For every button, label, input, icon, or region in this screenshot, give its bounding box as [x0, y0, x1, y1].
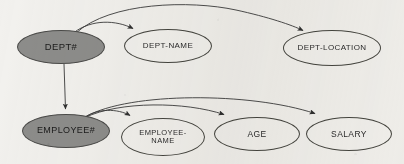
node-employee-number[interactable]: EMPLOYEE#	[22, 114, 110, 148]
node-age[interactable]: AGE	[214, 117, 300, 151]
node-salary[interactable]: SALARY	[306, 117, 392, 151]
node-dept-location[interactable]: DEPT-LOCATION	[283, 30, 381, 66]
edge-employee-to-age	[85, 105, 224, 118]
node-dept-number[interactable]: DEPT#	[17, 30, 105, 64]
diagram-canvas: DEPT# DEPT-NAME DEPT-LOCATION EMPLOYEE# …	[0, 0, 404, 164]
edge-dept-to-dept-location	[76, 5, 303, 33]
node-employee-name[interactable]: EMPLOYEE- NAME	[121, 118, 205, 156]
edge-dept-to-employee	[64, 64, 66, 109]
node-dept-name[interactable]: DEPT-NAME	[124, 29, 212, 63]
